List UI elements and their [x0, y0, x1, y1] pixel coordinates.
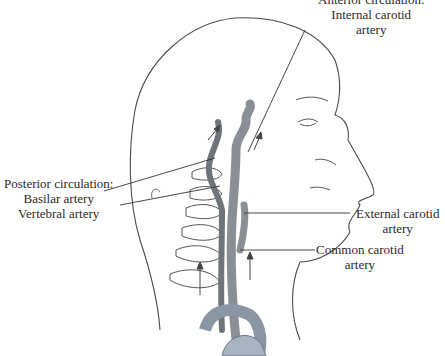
jaw-line [293, 262, 301, 340]
eyebrow [296, 97, 328, 101]
common-carotid-line1: Common carotid [316, 242, 404, 257]
basilar-artery-label: Basilar artery [4, 191, 113, 206]
vertebral-artery-label: Vertebral artery [4, 206, 113, 221]
external-carotid-line2: artery [356, 221, 439, 236]
nostril [315, 159, 336, 165]
diagram-canvas: Anterior circulation: Internal carotid a… [0, 0, 445, 356]
anterior-circulation-label: Anterior circulation: Internal carotid a… [318, 0, 425, 37]
leader-lines [104, 30, 350, 250]
internal-carotid-label-2: artery [318, 22, 425, 37]
external-carotid-label: External carotid artery [356, 206, 439, 236]
posterior-circulation-label: Posterior circulation: Basilar artery Ve… [4, 176, 113, 221]
external-carotid-artery [240, 205, 245, 250]
anterior-title: Anterior circulation: [318, 0, 425, 7]
neck-back [140, 240, 160, 330]
ear [152, 189, 160, 198]
common-carotid-line2: artery [316, 257, 404, 272]
head-outline [130, 18, 374, 262]
posterior-title: Posterior circulation: [4, 176, 113, 191]
lips [310, 187, 330, 190]
external-carotid-line1: External carotid [356, 206, 439, 221]
internal-carotid-label: Internal carotid [318, 7, 425, 22]
eye [298, 119, 318, 126]
common-carotid-label: Common carotid artery [316, 242, 404, 272]
